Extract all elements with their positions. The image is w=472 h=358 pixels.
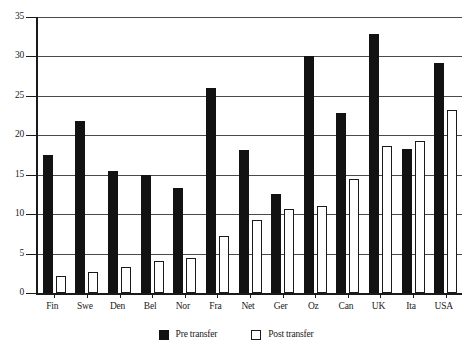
x-axis-label-oz: Oz <box>308 302 319 312</box>
y-axis-tick <box>26 96 36 97</box>
x-axis-label-fin: Fin <box>46 302 58 312</box>
x-axis-tick <box>380 293 381 298</box>
gridline <box>38 214 462 215</box>
y-axis-tick <box>26 293 36 294</box>
x-axis-tick <box>87 293 88 298</box>
x-axis-tick <box>54 293 55 298</box>
bar-post-transfer <box>252 220 262 293</box>
bar-post-transfer <box>219 236 229 293</box>
bar-pre-transfer <box>304 56 314 293</box>
gridline <box>38 254 462 255</box>
x-axis-tick <box>217 293 218 298</box>
y-axis-label: 15 <box>15 170 24 180</box>
bar-post-transfer <box>88 272 98 293</box>
legend-item: Post transfer <box>251 330 313 340</box>
y-axis-tick <box>26 175 36 176</box>
x-axis-label-den: Den <box>110 302 125 312</box>
x-axis-label-nor: Nor <box>176 302 190 312</box>
legend-label: Post transfer <box>268 330 313 340</box>
bar-pre-transfer <box>108 171 118 293</box>
bar-post-transfer <box>382 146 392 293</box>
bar-pre-transfer <box>271 194 281 293</box>
bar-post-transfer <box>121 267 131 293</box>
bar-pre-transfer <box>402 149 412 293</box>
x-axis-label-can: Can <box>338 302 353 312</box>
y-axis-label: 30 <box>15 52 24 62</box>
gridline <box>38 17 462 18</box>
y-axis-tick <box>26 17 36 18</box>
bar-pre-transfer <box>239 150 249 293</box>
x-axis-label-usa: USA <box>434 302 452 312</box>
bar-pre-transfer <box>369 34 379 293</box>
y-axis-tick <box>26 135 36 136</box>
gridline <box>38 175 462 176</box>
x-axis-label-ita: Ita <box>406 302 415 312</box>
y-axis-label: 35 <box>15 12 24 22</box>
bar-post-transfer <box>56 276 66 293</box>
x-axis-tick <box>348 293 349 298</box>
bar-pre-transfer <box>43 155 53 293</box>
x-axis-tick <box>250 293 251 298</box>
x-axis-tick <box>120 293 121 298</box>
legend-label: Pre transfer <box>176 330 218 340</box>
x-axis-label-swe: Swe <box>77 302 93 312</box>
bar-post-transfer <box>349 179 359 293</box>
bar-pre-transfer <box>75 121 85 293</box>
x-axis-label-uk: UK <box>372 302 385 312</box>
y-axis-label: 20 <box>15 131 24 141</box>
x-axis-label-bel: Bel <box>144 302 157 312</box>
bar-post-transfer <box>154 261 164 293</box>
bar-pre-transfer <box>336 113 346 293</box>
gridline <box>38 96 462 97</box>
x-axis-tick <box>315 293 316 298</box>
bar-post-transfer <box>186 258 196 293</box>
x-axis-tick <box>152 293 153 298</box>
x-axis-tick <box>283 293 284 298</box>
x-axis-label-fra: Fra <box>209 302 221 312</box>
plot-area: 05101520253035 <box>36 17 462 295</box>
hollow-square-icon <box>251 330 261 340</box>
x-axis-tick <box>185 293 186 298</box>
y-axis-label: 25 <box>15 91 24 101</box>
legend-item: Pre transfer <box>159 330 218 340</box>
chart-legend: Pre transferPost transfer <box>0 330 472 340</box>
x-axis-tick <box>446 293 447 298</box>
bar-pre-transfer <box>434 63 444 293</box>
bar-pre-transfer <box>173 188 183 293</box>
x-axis-label-net: Net <box>241 302 254 312</box>
gridline <box>38 135 462 136</box>
x-axis-tick <box>413 293 414 298</box>
y-axis-tick <box>26 214 36 215</box>
y-axis-label: 10 <box>15 209 24 219</box>
y-axis-label: 5 <box>19 249 24 259</box>
y-axis-tick <box>26 254 36 255</box>
y-axis-label: 0 <box>19 288 24 298</box>
gridline <box>38 56 462 57</box>
bar-post-transfer <box>317 206 327 293</box>
y-axis-tick <box>26 56 36 57</box>
filled-square-icon <box>159 330 169 340</box>
bar-post-transfer <box>447 110 457 293</box>
bar-chart: 05101520253035 FinSweDenBelNorFraNetGerO… <box>0 0 472 358</box>
bar-post-transfer <box>284 209 294 293</box>
bar-pre-transfer <box>141 175 151 293</box>
bar-post-transfer <box>415 141 425 293</box>
bar-pre-transfer <box>206 88 216 293</box>
x-axis-label-ger: Ger <box>274 302 288 312</box>
